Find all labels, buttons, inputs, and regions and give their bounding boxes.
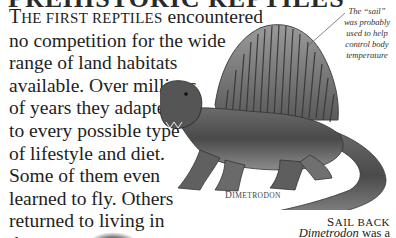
annotation-line: control body: [338, 39, 396, 50]
sail-annotation: The “sail” was probably used to help con…: [338, 6, 396, 61]
annotation-line: used to help: [338, 28, 396, 39]
intro-line-10: returned to living in: [9, 210, 339, 233]
front-leg-2: [215, 160, 245, 191]
annotation-line: temperature: [338, 50, 396, 61]
sidebar-text: Dimetrodon was a: [299, 226, 390, 238]
lead-small-caps: HE FIRST REPTILES: [21, 10, 163, 26]
lead-initial: T: [9, 5, 21, 27]
annotation-line: The “sail”: [338, 6, 396, 17]
annotation-line: was probably: [338, 17, 396, 28]
illustration-caption: DIMETRODON: [225, 190, 281, 200]
intro-line-11: the sea.: [9, 233, 339, 238]
sidebar-species-name: Dimetrodon: [299, 226, 359, 238]
sidebar-text-rest: was a: [359, 226, 390, 238]
front-leg: [178, 150, 220, 190]
caption-rest: IMETRODON: [232, 191, 281, 200]
partial-illustration-bottom: [88, 232, 138, 238]
